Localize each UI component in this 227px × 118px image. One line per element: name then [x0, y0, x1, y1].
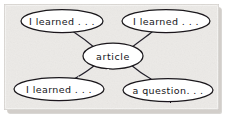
node-article[interactable]: article — [83, 43, 143, 69]
node-bottom-left-label: I learned . . . — [26, 84, 92, 95]
node-top-right-label: I learned . . . — [133, 16, 199, 27]
concept-map: I learned . . . I learned . . . article … — [0, 0, 227, 118]
node-bottom-right-label: a question. . . — [133, 85, 204, 96]
diagram-canvas: I learned . . . I learned . . . article … — [0, 0, 227, 118]
node-top-right[interactable]: I learned . . . — [122, 10, 210, 33]
node-bottom-right[interactable]: a question. . . — [123, 79, 213, 102]
node-top-left[interactable]: I learned . . . — [21, 10, 103, 33]
node-top-left-label: I learned . . . — [29, 16, 95, 27]
node-article-label: article — [96, 51, 130, 62]
node-bottom-left[interactable]: I learned . . . — [14, 78, 104, 101]
